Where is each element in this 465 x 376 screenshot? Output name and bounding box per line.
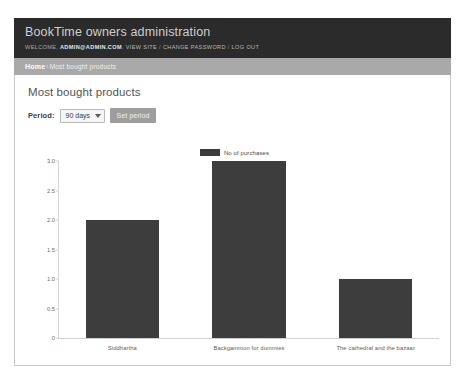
chart-container: No of purchases 00.51.01.52.02.53.0 Sidd… (28, 147, 441, 361)
content-card: Most bought products Period: 90 days Set… (14, 75, 451, 366)
y-axis-tick-label: 0 (52, 335, 55, 341)
breadcrumb: Home›Most bought products (14, 58, 451, 75)
breadcrumb-separator-icon: › (46, 63, 48, 70)
username-label: ADMIN@ADMIN.COM (60, 44, 122, 50)
user-tools: WELCOME, ADMIN@ADMIN.COM. VIEW SITE / CH… (25, 44, 440, 50)
log-out-link[interactable]: LOG OUT (232, 44, 260, 50)
y-axis-tick-label: 1.5 (47, 247, 55, 253)
page-title: Most bought products (15, 75, 450, 98)
y-axis-tick-label: 2.5 (47, 188, 55, 194)
bar[interactable] (339, 279, 412, 338)
period-label: Period: (28, 111, 55, 120)
set-period-button[interactable]: Set period (110, 108, 157, 123)
y-axis-tick-label: 0.5 (47, 306, 55, 312)
legend-label-no-of-purchases: No of purchases (224, 150, 269, 156)
bar[interactable] (212, 161, 285, 338)
site-title: BookTime owners administration (25, 25, 440, 40)
x-axis-tick-label: Siddhartha (59, 345, 186, 351)
x-axis-tick-label: Backgammon for dummies (186, 345, 313, 351)
admin-page: BookTime owners administration WELCOME, … (14, 18, 451, 366)
welcome-text: WELCOME, (25, 44, 58, 50)
bar-slot: Siddhartha (59, 161, 186, 338)
y-axis-tick-label: 3.0 (47, 158, 55, 164)
site-header: BookTime owners administration WELCOME, … (14, 18, 451, 58)
bar-group: SiddharthaBackgammon for dummiesThe cath… (59, 161, 439, 338)
link-separator-1: / (159, 44, 161, 50)
plot-area: 00.51.01.52.02.53.0 SiddharthaBackgammon… (58, 161, 439, 339)
period-form: Period: 90 days Set period (15, 98, 450, 123)
breadcrumb-home-link[interactable]: Home (25, 63, 45, 70)
period-select-value: 90 days (66, 112, 91, 119)
bar-slot: Backgammon for dummies (186, 161, 313, 338)
period-select[interactable]: 90 days (60, 109, 105, 123)
bar-slot: The cathedral and the bazaar (312, 161, 439, 338)
chart-plot: 00.51.01.52.02.53.0 SiddharthaBackgammon… (28, 159, 441, 361)
chart-legend: No of purchases (28, 147, 441, 158)
legend-swatch-no-of-purchases (200, 149, 220, 156)
y-axis-tick-label: 1.0 (47, 276, 55, 282)
y-axis-tick-label: 2.0 (47, 217, 55, 223)
x-axis-tick-label: The cathedral and the bazaar (312, 345, 439, 351)
username-suffix: . (122, 44, 124, 50)
view-site-link[interactable]: VIEW SITE (126, 44, 157, 50)
breadcrumb-current: Most bought products (50, 63, 117, 70)
link-separator-2: / (228, 44, 230, 50)
chevron-down-icon (95, 114, 101, 118)
change-password-link[interactable]: CHANGE PASSWORD (163, 44, 226, 50)
bar[interactable] (86, 220, 159, 338)
